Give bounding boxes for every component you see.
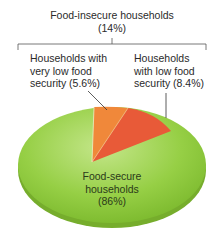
very-low-label: Households with very low food security (… <box>30 52 120 90</box>
group-title: Food-insecure households <box>40 9 184 22</box>
very-low-line2: very low food <box>30 65 120 78</box>
group-value: (14%) <box>40 22 184 35</box>
very-low-line3: security (5.6%) <box>30 77 120 90</box>
food-secure-label: Food-secure households (86%) <box>62 170 162 208</box>
low-line2: with low food <box>134 65 224 78</box>
secure-line3: (86%) <box>62 195 162 208</box>
low-line3: security (8.4%) <box>134 77 224 90</box>
secure-line2: households <box>62 183 162 196</box>
group-bracket <box>18 38 206 50</box>
group-title-label: Food-insecure households (14%) <box>40 9 184 34</box>
secure-line1: Food-secure <box>62 170 162 183</box>
very-low-line1: Households with <box>30 52 120 65</box>
low-label: Households with low food security (8.4%) <box>134 52 224 90</box>
low-line1: Households <box>134 52 224 65</box>
